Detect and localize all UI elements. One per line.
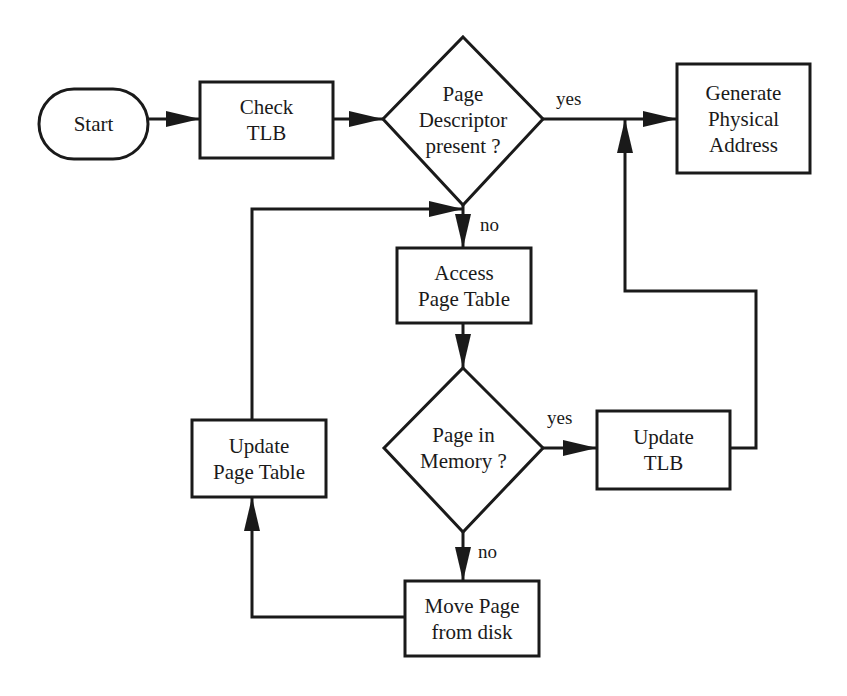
move-page-line-2: from disk (431, 619, 512, 645)
descriptor-line-3: present ? (425, 133, 500, 159)
update-tlb-label: Update TLB (597, 411, 730, 489)
memory-line-1: Page in (432, 422, 494, 448)
descriptor-line-2: Descriptor (419, 107, 508, 133)
check-tlb-line-1: Check (240, 94, 294, 120)
update-pt-line-2: Page Table (213, 459, 305, 485)
generate-physical-address-label: Generate Physical Address (677, 64, 810, 173)
descriptor-yes-label: yes (556, 89, 581, 109)
access-page-table-label: Access Page Table (397, 248, 531, 323)
start-text: Start (74, 111, 114, 137)
generate-line-1: Generate (706, 80, 782, 106)
page-in-memory-label: Page in Memory ? (384, 404, 543, 492)
move-page-label: Move Page from disk (405, 581, 539, 656)
access-line-1: Access (434, 260, 493, 286)
update-tlb-line-1: Update (633, 424, 694, 450)
check-tlb-label: Check TLB (200, 82, 333, 158)
edge-movepage-updatepagetable (252, 497, 405, 617)
move-page-line-1: Move Page (424, 593, 519, 619)
generate-line-3: Address (709, 132, 778, 158)
update-pt-line-1: Update (229, 433, 290, 459)
update-tlb-line-2: TLB (644, 450, 684, 476)
descriptor-line-1: Page (443, 81, 484, 107)
memory-no-label: no (478, 542, 497, 562)
access-line-2: Page Table (418, 286, 510, 312)
memory-line-2: Memory ? (420, 448, 507, 474)
generate-line-2: Physical (708, 106, 779, 132)
memory-yes-label: yes (547, 408, 572, 428)
update-page-table-label: Update Page Table (192, 420, 326, 497)
check-tlb-line-2: TLB (247, 120, 287, 146)
page-descriptor-label: Page Descriptor present ? (383, 52, 543, 188)
descriptor-no-label: no (480, 215, 499, 235)
start-label: Start (39, 89, 148, 159)
